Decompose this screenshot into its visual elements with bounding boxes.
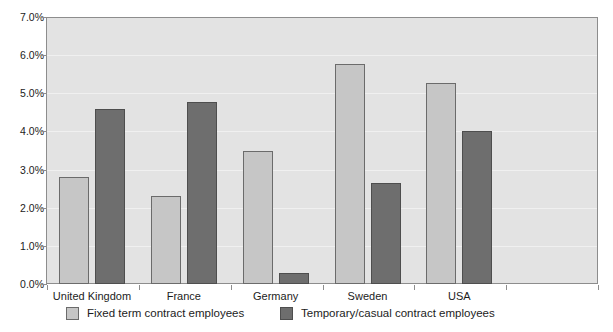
bar [151,196,181,284]
x-axis-tick-mark [506,285,507,290]
chart-title [0,0,613,5]
bar [462,131,492,284]
y-axis-tick-label: 4.0% [0,126,44,136]
bar-group [414,17,506,284]
legend-entry-fixed-term: Fixed term contract employees [66,307,244,320]
x-axis-tick-mark [231,285,232,290]
chart-legend: Fixed term contract employees Temporary/… [0,307,613,329]
y-axis-tick-mark [41,246,47,247]
legend-label-series-1: Temporary/casual contract employees [301,307,495,320]
x-axis-tick-mark [323,285,324,290]
y-axis-tick-label: 5.0% [0,88,44,98]
legend-label-series-0: Fixed term contract employees [87,307,244,320]
bar [279,273,309,284]
bar-group [323,17,415,284]
x-axis-tick-mark [598,285,599,290]
x-axis-tick-mark [139,285,140,290]
y-axis-tick-mark [41,208,47,209]
x-axis-tick-mark [47,285,48,290]
y-axis-tick-label: 0.0% [0,279,44,289]
y-axis-tick-mark [41,170,47,171]
bar-chart: Fixed term contract employees Temporary/… [0,0,613,332]
plot-area [47,17,598,284]
bar [243,151,273,285]
x-axis-tick-label: USA [389,289,529,303]
y-axis-line [46,17,47,285]
y-axis-tick-mark [41,131,47,132]
y-axis-tick-label: 6.0% [0,50,44,60]
legend-swatch-icon-series-1 [280,307,293,320]
y-axis-tick-mark [41,55,47,56]
bar [335,64,365,284]
y-axis-tick-label: 7.0% [0,12,44,22]
y-axis-tick-label: 3.0% [0,165,44,175]
x-axis-tick-mark [414,285,415,290]
bar [426,83,456,284]
bar [371,183,401,284]
bar-group [139,17,231,284]
y-axis-tick-mark [41,93,47,94]
legend-swatch-icon-series-0 [66,307,79,320]
y-axis-tick-mark [41,17,47,18]
bar [95,109,125,284]
bar [59,177,89,284]
y-axis-tick-label: 1.0% [0,241,44,251]
bar [187,102,217,284]
y-axis-tick-label: 2.0% [0,203,44,213]
legend-entry-temporary-casual: Temporary/casual contract employees [280,307,495,320]
bar-group [231,17,323,284]
bar-group [47,17,139,284]
